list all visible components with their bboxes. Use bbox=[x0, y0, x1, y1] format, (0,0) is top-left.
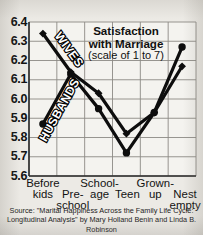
data-point-husbands-3 bbox=[123, 149, 130, 156]
data-point-husbands-4 bbox=[151, 109, 158, 116]
chart-title-line-1: Satisfaction bbox=[78, 24, 174, 37]
y-axis-tick-label: 6.2 bbox=[0, 54, 27, 67]
y-axis-tick-label: 6.0 bbox=[0, 93, 27, 106]
y-axis-tick-label: 5.8 bbox=[0, 131, 27, 144]
y-axis-tick-label: 6.4 bbox=[0, 16, 27, 29]
data-point-husbands-5 bbox=[178, 43, 185, 50]
data-point-husbands-1 bbox=[67, 70, 74, 77]
y-axis-tick-label: 6.3 bbox=[0, 35, 27, 48]
chart-title: Satisfaction with Marriage bbox=[78, 24, 174, 50]
chart-figure: WIVESHUSBANDS 6.46.36.26.16.05.95.85.75.… bbox=[0, 0, 203, 235]
chart-source-note: Source: "Marital Happiness Across the Fa… bbox=[2, 206, 201, 234]
chart-subtitle: (scale of 1 to 7) bbox=[74, 49, 178, 61]
data-point-husbands-2 bbox=[95, 105, 102, 112]
y-axis-tick-label: 5.7 bbox=[0, 150, 27, 163]
y-axis-tick-label: 5.9 bbox=[0, 112, 27, 125]
y-axis-tick-label: 6.1 bbox=[0, 73, 27, 86]
